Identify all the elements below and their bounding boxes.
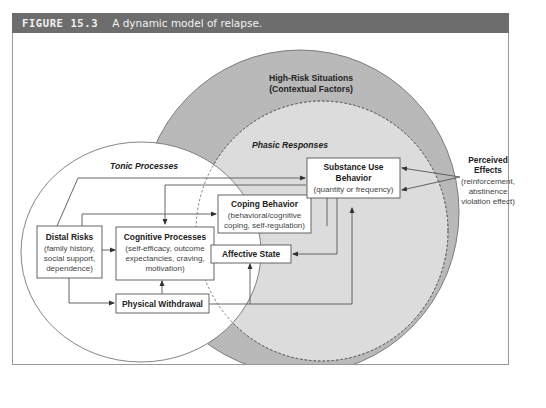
phasic-title: Phasic Responses (252, 140, 328, 150)
coping-title: Coping Behavior (231, 199, 299, 209)
substance-line: (quantity or frequency) (313, 185, 393, 194)
substance-title-2: Behavior (336, 173, 373, 183)
affective-title: Affective State (222, 249, 281, 259)
box-physical-withdrawal: Physical Withdrawal (116, 294, 209, 313)
perceived-effects-title-1: Perceived (468, 155, 508, 165)
perceived-effects-line: violation effect) (461, 197, 515, 206)
box-cognitive-processes: Cognitive Processes (self-efficacy, outc… (116, 227, 214, 280)
withdrawal-title: Physical Withdrawal (122, 299, 203, 309)
box-distal-risks: Distal Risks (family history, social sup… (37, 226, 102, 278)
cognitive-title: Cognitive Processes (124, 232, 207, 242)
distal-risks-line: social support, (44, 254, 96, 263)
cognitive-line: (self-efficacy, outcome (125, 244, 205, 253)
cognitive-line: motivation) (145, 264, 184, 273)
distal-risks-title: Distal Risks (46, 232, 94, 242)
high-risk-subtitle: (Contextual Factors) (269, 84, 353, 94)
coping-line: coping, self-regulation) (224, 221, 305, 230)
tonic-title: Tonic Processes (110, 161, 178, 171)
box-substance-use: Substance Use Behavior (quantity or freq… (307, 158, 400, 198)
relapse-model-diagram: High-Risk Situations (Contextual Factors… (0, 0, 546, 408)
perceived-effects-title-2: Effects (474, 165, 502, 175)
perceived-effects-line: (reinforcement, (461, 177, 515, 186)
box-affective-state: Affective State (211, 245, 291, 263)
substance-title-1: Substance Use (323, 162, 383, 172)
high-risk-title: High-Risk Situations (269, 73, 353, 83)
distal-risks-line: (family history, (44, 244, 95, 253)
distal-risks-line: dependence) (46, 264, 93, 273)
perceived-effects-line: abstinence (469, 187, 508, 196)
perceived-effects-label: Perceived Effects (reinforcement, abstin… (461, 155, 515, 206)
cognitive-line: expectancies, craving, (125, 254, 204, 263)
box-coping-behavior: Coping Behavior (behavioral/cognitive co… (218, 195, 311, 233)
coping-line: (behavioral/cognitive (228, 211, 302, 220)
